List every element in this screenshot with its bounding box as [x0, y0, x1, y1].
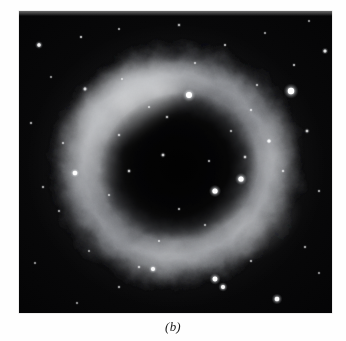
- star: [118, 28, 120, 30]
- star: [213, 277, 218, 282]
- star: [282, 170, 284, 172]
- star: [224, 44, 226, 46]
- nebula-photograph: [19, 11, 332, 313]
- star: [148, 106, 150, 108]
- star: [178, 208, 180, 210]
- figure-panel-b: (b): [0, 0, 346, 341]
- star: [76, 302, 78, 304]
- star: [121, 78, 123, 80]
- star: [151, 267, 155, 271]
- star: [30, 122, 32, 124]
- star: [73, 171, 78, 176]
- star: [34, 262, 36, 264]
- star: [108, 194, 110, 196]
- star: [250, 260, 252, 262]
- star: [256, 84, 258, 86]
- star: [318, 190, 320, 192]
- star: [250, 109, 252, 111]
- star: [293, 64, 295, 66]
- star: [275, 297, 280, 302]
- star: [221, 285, 225, 289]
- nebula-image-canvas: [19, 11, 332, 313]
- star: [162, 154, 165, 157]
- star: [194, 62, 196, 64]
- star: [306, 130, 309, 133]
- star: [128, 170, 130, 172]
- star: [318, 272, 320, 274]
- star: [62, 142, 64, 144]
- star: [288, 88, 294, 94]
- star: [88, 250, 90, 252]
- star: [308, 20, 310, 22]
- star: [324, 50, 327, 53]
- star: [58, 210, 60, 212]
- star: [166, 116, 168, 118]
- star: [238, 176, 243, 181]
- star: [80, 36, 82, 38]
- star: [50, 76, 52, 78]
- figure-caption: (b): [0, 319, 346, 335]
- star: [37, 43, 40, 46]
- star: [230, 130, 232, 132]
- star: [84, 88, 87, 91]
- star: [267, 139, 270, 142]
- film-grain: [19, 11, 332, 313]
- star: [304, 246, 306, 248]
- star: [264, 32, 266, 34]
- star: [186, 92, 192, 98]
- star: [138, 266, 140, 268]
- star: [208, 160, 210, 162]
- star: [244, 156, 246, 158]
- star: [118, 134, 120, 136]
- star: [212, 188, 217, 193]
- star: [158, 240, 160, 242]
- star: [204, 224, 206, 226]
- star: [118, 286, 120, 288]
- star: [178, 24, 180, 26]
- star: [42, 186, 44, 188]
